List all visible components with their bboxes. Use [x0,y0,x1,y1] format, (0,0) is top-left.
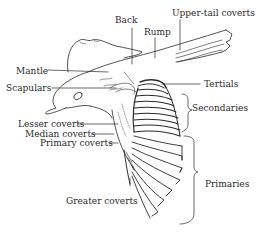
label-upper-tail-coverts: Upper-tail coverts [172,8,255,18]
label-lesser-coverts: Lesser coverts [18,119,84,129]
label-mantle: Mantle [16,66,48,76]
label-rump: Rump [144,27,171,37]
label-secondaries: Secondaries [192,103,248,113]
label-primaries: Primaries [205,179,249,189]
label-tertials: Tertials [204,79,238,89]
label-scapulars: Scapulars [6,83,51,93]
label-primary-coverts: Primary coverts [40,138,113,148]
label-back: Back [115,15,137,25]
bird-anatomy-diagram: Back Rump Upper-tail coverts Mantle Scap… [0,0,258,235]
label-greater-coverts: Greater coverts [66,196,138,206]
